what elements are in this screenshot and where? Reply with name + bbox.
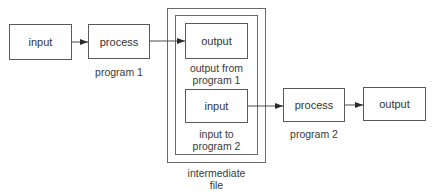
intermediate-output-label: output <box>201 35 232 47</box>
input-caption-line1: input to <box>180 128 253 140</box>
program1-input-label: input <box>29 36 53 48</box>
program2-process-label: process <box>295 99 334 111</box>
program2-caption: program 2 <box>283 128 345 140</box>
intermediate-caption-line1: intermediate <box>167 167 266 179</box>
program1-caption: program 1 <box>88 66 150 78</box>
program2-output-label: output <box>379 98 410 110</box>
intermediate-output-box: output <box>185 23 248 59</box>
intermediate-input-label: input <box>205 100 229 112</box>
output-caption-line1: output from <box>180 62 253 74</box>
program2-process-box: process <box>283 88 345 122</box>
output-from-program1-caption: output from program 1 <box>180 62 253 86</box>
program1-process-box: process <box>88 24 150 59</box>
program1-input-box: input <box>9 24 72 60</box>
program2-output-box: output <box>363 87 426 121</box>
output-caption-line2: program 1 <box>180 74 253 86</box>
input-to-program2-caption: input to program 2 <box>180 128 253 152</box>
program1-process-label: process <box>100 36 139 48</box>
input-caption-line2: program 2 <box>180 140 253 152</box>
intermediate-input-box: input <box>185 89 248 123</box>
intermediate-file-caption: intermediate file <box>167 167 266 191</box>
intermediate-caption-line2: file <box>167 179 266 191</box>
